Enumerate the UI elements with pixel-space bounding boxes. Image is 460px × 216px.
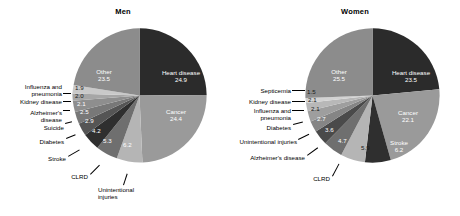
callout-men-suicide: Suicide [10, 124, 64, 131]
callout-women-diabetes: Diabetes [230, 124, 291, 131]
callout-women-influenza-line1: Influenza and [254, 107, 291, 114]
leader-women-clrd [332, 164, 339, 177]
callout-women-clrd: CLRD [282, 175, 330, 182]
callout-women-kidney-disease: Kidney disease [230, 98, 291, 105]
leader-men-unintentional [123, 174, 128, 186]
pie-svg-women [304, 27, 441, 164]
pie-svg-men [71, 27, 208, 164]
callout-men-alzheimers-disease: Alzheimer's disease [6, 109, 62, 123]
callout-women-influenza-pneumonia: Influenza and pneumonia [230, 107, 291, 121]
callout-men-kidney-disease: Kidney disease [0, 98, 62, 105]
leader-men-kidney [63, 101, 71, 102]
callout-men-clrd: CLRD [40, 173, 88, 180]
panel-women: Women [230, 0, 460, 216]
slice-men-other[interactable] [74, 28, 140, 95]
slice-men-heart-disease[interactable] [140, 28, 207, 95]
leader-men-alzheimers [63, 110, 70, 111]
callout-men-unintentional-line2: injuries [98, 193, 118, 200]
leader-women-kidney [292, 101, 305, 102]
pie-chart-women: Heart disease 23.5 Cancer 22.1 Other 25.… [304, 27, 441, 164]
figure-leading-causes-of-death: Men [0, 0, 460, 216]
callout-women-septicemia: Septicemia [230, 87, 291, 94]
callout-men-diabetes: Diabetes [10, 138, 64, 145]
callout-women-unintentional-injuries: Unintentional injuries [230, 138, 297, 145]
callout-men-unintentional-line1: Unintentional [98, 186, 134, 193]
callout-men-alzheimers-line1: Alzheimer's [30, 109, 62, 116]
leader-women-influenza [292, 110, 304, 111]
leader-men-clrd [90, 165, 100, 175]
panel-title-women: Women [230, 7, 460, 16]
callout-men-influenza-line1: Influenza and [25, 83, 62, 90]
callout-women-influenza-line2: pneumonia [260, 114, 291, 121]
pie-chart-men: Heart disease 24.9 Cancer 24.4 Other 23.… [71, 27, 208, 164]
callout-men-influenza-pneumonia: Influenza and pneumonia [0, 83, 62, 97]
leader-women-septicemia [292, 90, 305, 91]
leader-women-diabetes [293, 121, 303, 125]
callout-men-influenza-line2: pneumonia [31, 90, 62, 97]
slice-women-other[interactable] [305, 28, 372, 98]
callout-women-alzheimers-disease: Alzheimer's disease [233, 154, 305, 161]
callout-men-alzheimers-line2: disease [41, 116, 62, 123]
leader-men-influenza [63, 93, 71, 94]
panel-title-men: Men [0, 7, 230, 16]
slice-women-heart-disease[interactable] [373, 28, 440, 95]
callout-men-unintentional-injuries: Unintentional injuries [98, 186, 162, 200]
panel-men: Men [0, 0, 230, 216]
slice-men-cancer[interactable] [140, 95, 207, 162]
callout-men-stroke: Stroke [16, 155, 66, 162]
